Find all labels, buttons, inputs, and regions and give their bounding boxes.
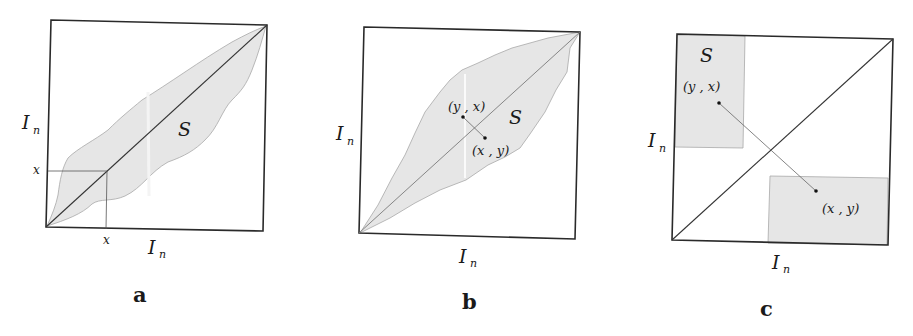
axis-x-label-a: I bbox=[147, 236, 156, 258]
diagonal-b bbox=[359, 32, 580, 233]
tick-x-x-a: x bbox=[103, 233, 110, 247]
axis-y-label-b: I bbox=[335, 122, 344, 144]
scan-streak bbox=[148, 92, 149, 196]
point-lower-label-b: (x , y) bbox=[472, 143, 509, 158]
panel-c: (y , x) (x , y) S I n I n c bbox=[647, 34, 893, 321]
panel-letter-c: c bbox=[760, 296, 773, 321]
axis-x-sub-a: n bbox=[159, 248, 166, 261]
axis-y-label-a: I bbox=[21, 111, 30, 133]
panel-a: x x S I n I n a bbox=[21, 20, 267, 307]
region-label-c: S bbox=[700, 44, 713, 66]
axis-y-sub-a: n bbox=[33, 124, 40, 137]
axis-x-label-c: I bbox=[771, 251, 780, 273]
point-upper-label-b: (y , x) bbox=[448, 99, 485, 114]
panel-letter-b: b bbox=[462, 289, 477, 314]
point-lower-b bbox=[483, 136, 487, 140]
figure-canvas: x x S I n I n a (y , x) (x , y) S I n I … bbox=[0, 0, 913, 336]
region-label-b: S bbox=[509, 106, 522, 128]
axis-y-label-c: I bbox=[647, 129, 656, 151]
point-lower-c bbox=[814, 189, 818, 193]
axis-x-sub-b: n bbox=[470, 257, 477, 270]
panel-b: (y , x) (x , y) S I n I n b bbox=[335, 27, 580, 314]
region-label-a: S bbox=[178, 118, 191, 140]
point-upper-label-c: (y , x) bbox=[683, 79, 720, 94]
axis-x-label-b: I bbox=[458, 245, 467, 267]
axis-y-sub-c: n bbox=[659, 142, 666, 155]
point-lower-label-c: (x , y) bbox=[822, 201, 859, 216]
axis-x-sub-c: n bbox=[783, 263, 790, 276]
diagonal-a bbox=[46, 25, 267, 227]
point-upper-b bbox=[461, 115, 465, 119]
point-upper-c bbox=[717, 101, 721, 105]
tick-y-x-a: x bbox=[33, 163, 40, 177]
panel-letter-a: a bbox=[133, 282, 147, 307]
axis-y-sub-b: n bbox=[347, 135, 354, 148]
